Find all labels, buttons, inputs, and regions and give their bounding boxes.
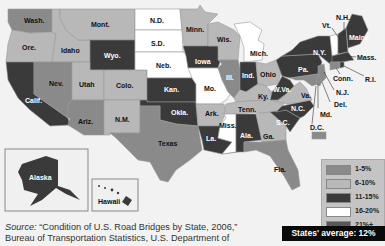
label-mich: Mich. xyxy=(250,50,268,57)
label-utah: Utah xyxy=(79,81,95,88)
label-ri: R.I. xyxy=(365,76,376,83)
label-miss: Miss. xyxy=(219,122,237,129)
label-nh: N.H. xyxy=(336,14,350,21)
label-wis: Wis. xyxy=(217,36,231,43)
legend-swatch xyxy=(326,165,351,175)
label-wva: W.Va. xyxy=(273,86,291,93)
label-ky: Ky. xyxy=(258,93,268,101)
states-average-badge: States' average: 12% xyxy=(282,226,385,241)
label-neb: Neb. xyxy=(156,62,171,69)
state-fla xyxy=(244,140,300,190)
label-ark: Ark. xyxy=(205,110,219,117)
label-ala: Ala. xyxy=(240,132,253,139)
label-del: Del. xyxy=(334,101,347,108)
source-line-2: Bureau of Transportation Statistics, U.S… xyxy=(5,233,229,243)
label-wash: Wash. xyxy=(24,17,44,24)
label-mo: Mo. xyxy=(204,85,216,92)
legend-label: 1-5% xyxy=(355,165,371,172)
label-iowa: Iowa xyxy=(195,58,211,65)
label-dc: D.C. xyxy=(310,124,324,131)
legend-swatch xyxy=(326,207,351,217)
label-ore: Ore. xyxy=(22,44,36,51)
label-minn: Minn. xyxy=(186,26,204,33)
label-tenn: Tenn. xyxy=(238,106,256,113)
legend-swatch xyxy=(326,193,351,203)
legend-label: 11-15% xyxy=(355,193,379,200)
source-line-1: “Condition of U.S. Road Bridges by State… xyxy=(37,222,238,232)
label-nev: Nev. xyxy=(49,80,63,87)
hawaii-inset xyxy=(92,179,138,211)
legend-label: 16-20% xyxy=(355,207,379,214)
label-ny: N.Y. xyxy=(313,49,326,56)
state-ri xyxy=(340,62,344,68)
legend-swatch xyxy=(326,179,351,189)
source-citation: Source: “Condition of U.S. Road Bridges … xyxy=(5,222,295,244)
label-calif: Calif. xyxy=(25,97,42,104)
label-nd: N.D. xyxy=(150,17,164,24)
state-conn xyxy=(330,62,340,70)
label-colo: Colo. xyxy=(116,82,134,89)
label-maine: Maine xyxy=(349,34,369,41)
label-nj: N.J. xyxy=(336,89,349,96)
label-md: Md. xyxy=(320,111,332,118)
state-dc xyxy=(312,132,326,139)
legend-label: 6-10% xyxy=(355,179,375,186)
label-ill: Ill. xyxy=(226,74,234,81)
label-vt: Vt. xyxy=(322,22,331,29)
label-pa: Pa. xyxy=(298,66,309,73)
label-wyo: Wyo. xyxy=(104,52,121,60)
bridge-condition-map: Wash. Ore. Calif. Idaho Nev. Mont. Wyo. … xyxy=(0,0,385,246)
label-nm: N.M. xyxy=(115,116,130,123)
label-fla: Fla. xyxy=(274,166,286,173)
label-ga: Ga. xyxy=(263,133,274,140)
label-conn: Conn. xyxy=(333,75,353,82)
label-kan: Kan. xyxy=(164,86,179,93)
label-ohio: Ohio xyxy=(260,71,276,78)
label-nc: N.C. xyxy=(291,105,305,112)
legend: 1-5% 6-10% 11-15% 16-20% 21%+ xyxy=(321,159,385,235)
label-alaska: Alaska xyxy=(29,174,52,181)
label-texas: Texas xyxy=(158,140,177,147)
label-okla: Okla. xyxy=(171,109,188,116)
label-ariz: Ariz. xyxy=(78,118,93,125)
label-sc: S.C. xyxy=(276,119,290,126)
source-prefix: Source: xyxy=(5,222,37,232)
label-mass: Mass. xyxy=(357,54,377,61)
label-ind: Ind. xyxy=(242,72,254,79)
label-va: Va. xyxy=(301,92,311,99)
label-la: La. xyxy=(206,135,216,142)
label-sd: S.D. xyxy=(151,40,165,47)
label-hawaii: Hawaii xyxy=(98,198,120,205)
label-idaho: Idaho xyxy=(61,47,80,54)
label-mont: Mont. xyxy=(91,21,110,28)
